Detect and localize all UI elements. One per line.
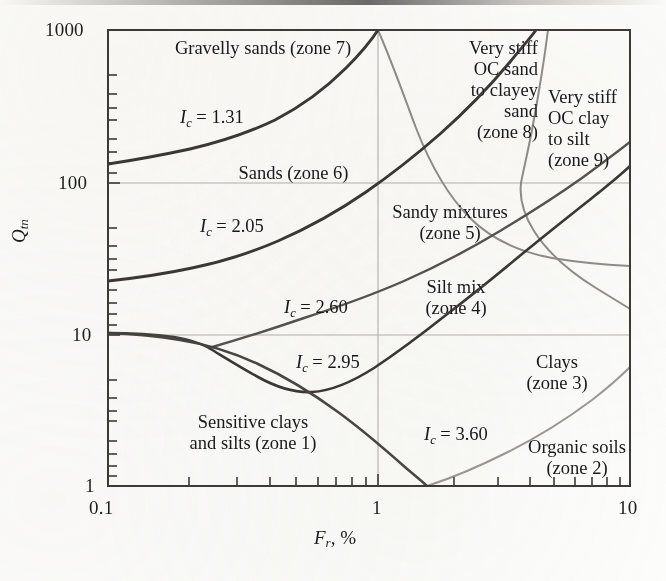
- ic-equals: =: [212, 216, 232, 236]
- y-tick-label-10: 10: [72, 324, 91, 346]
- y-tick-label-100: 100: [58, 172, 87, 194]
- ic-equals: =: [296, 297, 316, 317]
- ic-label-2-95: Ic = 2.95: [296, 352, 360, 376]
- x-axis-title-symbol: F: [314, 527, 326, 548]
- zone-label-4: Silt mix (zone 4): [400, 277, 512, 319]
- x-tick-label-10: 10: [618, 497, 637, 519]
- ic-value-2-95: 2.95: [327, 352, 359, 372]
- zone-label-1: Sensitive clays and silts (zone 1): [158, 412, 348, 454]
- ic-value-1-31: 1.31: [211, 107, 243, 127]
- ic-label-1-31: Ic = 1.31: [180, 107, 244, 131]
- ic-equals: =: [436, 424, 456, 444]
- zone-label-2: Organic soils (zone 2): [512, 437, 642, 479]
- x-tick-label-0-1: 0.1: [89, 497, 113, 519]
- x-axis-title-suffix: , %: [331, 527, 356, 548]
- ic-label-3-60: Ic = 3.60: [424, 424, 488, 448]
- y-tick-label-1: 1: [85, 475, 95, 497]
- y-axis-title-subscript: tn: [16, 219, 31, 229]
- ic-label-2-60: Ic = 2.60: [284, 297, 348, 321]
- x-tick-label-1: 1: [372, 497, 382, 519]
- zone-label-3: Clays (zone 3): [502, 352, 612, 394]
- y-axis-title-symbol: Q: [8, 229, 29, 243]
- zone-label-9: Very stiff OC clay to silt (zone 9): [548, 87, 658, 171]
- ic-equals: =: [192, 107, 212, 127]
- zone-label-5: Sandy mixtures (zone 5): [370, 202, 530, 244]
- x-axis-title: Fr, %: [314, 527, 356, 551]
- ic-value-3-60: 3.60: [455, 424, 487, 444]
- ic-value-2-60: 2.60: [315, 297, 347, 317]
- zone-label-8: Very stiff OC sand to clayey sand (zone …: [422, 38, 538, 143]
- y-tick-label-1000: 1000: [45, 19, 84, 41]
- zone-label-7: Gravelly sands (zone 7): [148, 38, 378, 59]
- y-axis-title: Qtn: [8, 219, 32, 243]
- ic-value-2-05: 2.05: [231, 216, 263, 236]
- ic-equals: =: [308, 352, 328, 372]
- zone-label-6: Sands (zone 6): [206, 163, 381, 184]
- cpt-soil-behaviour-chart-figure: 1000 100 10 1 0.1 1 10 Qtn Fr, % Gravell…: [0, 0, 666, 581]
- ic-label-2-05: Ic = 2.05: [200, 216, 264, 240]
